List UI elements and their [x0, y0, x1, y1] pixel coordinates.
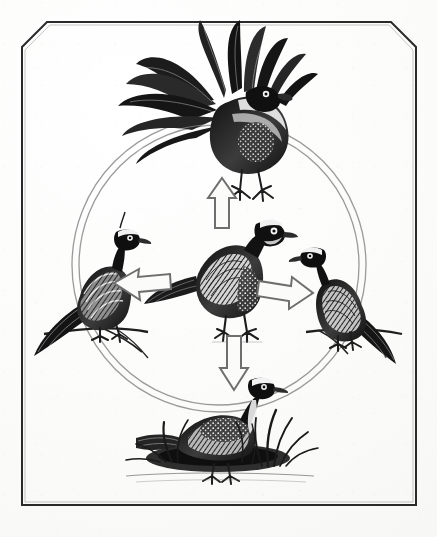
arrow-down [220, 336, 248, 390]
nesting-head [248, 377, 288, 434]
display-head [246, 86, 293, 112]
center-head [254, 219, 298, 246]
perched-bird-right [289, 247, 402, 364]
bird-cycle-illustration [0, 0, 437, 537]
left-head [114, 212, 151, 251]
displaying-male-bird [118, 20, 318, 201]
illustration-stage [0, 0, 437, 537]
display-legs [230, 170, 273, 201]
right-head [289, 247, 326, 267]
arrow-right [257, 277, 313, 309]
